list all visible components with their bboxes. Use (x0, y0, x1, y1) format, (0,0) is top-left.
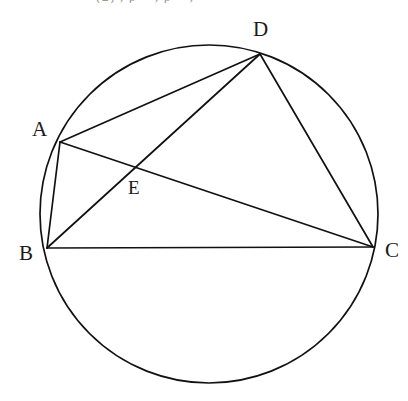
circle-outline (40, 45, 378, 383)
segment-bc (47, 247, 373, 248)
vertex-label-b: B (19, 243, 33, 264)
point-label-e: E (128, 178, 140, 197)
segment-ad (60, 54, 260, 142)
vertex-label-c: C (385, 240, 399, 261)
vertex-label-d: D (253, 19, 268, 40)
geometry-figure: (2) , p = , p = , A B C D E (0, 0, 408, 401)
segment-bd-diagonal (47, 54, 260, 248)
geometry-canvas (0, 0, 408, 401)
vertex-label-a: A (32, 119, 47, 140)
